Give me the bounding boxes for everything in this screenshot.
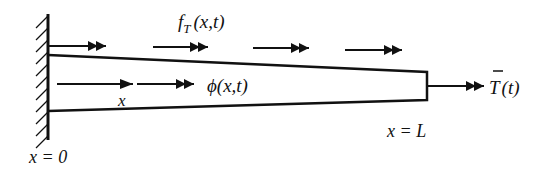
fixed-wall bbox=[36, 14, 48, 148]
right-end-label: x = L bbox=[386, 121, 426, 141]
bar-diagram: fT(x,t) ϕ(x,t) x x = 0 x = L T(t) bbox=[0, 0, 545, 171]
distributed-torque-arrows bbox=[49, 46, 402, 50]
coordinate-label: x bbox=[117, 91, 126, 110]
end-torque-label: T(t) bbox=[489, 71, 520, 99]
twist-angle-label: ϕ(x,t) bbox=[207, 75, 248, 97]
left-end-label: x = 0 bbox=[28, 147, 67, 167]
svg-text:T(t): T(t) bbox=[489, 77, 520, 99]
distributed-torque-label: fT(x,t) bbox=[178, 11, 225, 36]
